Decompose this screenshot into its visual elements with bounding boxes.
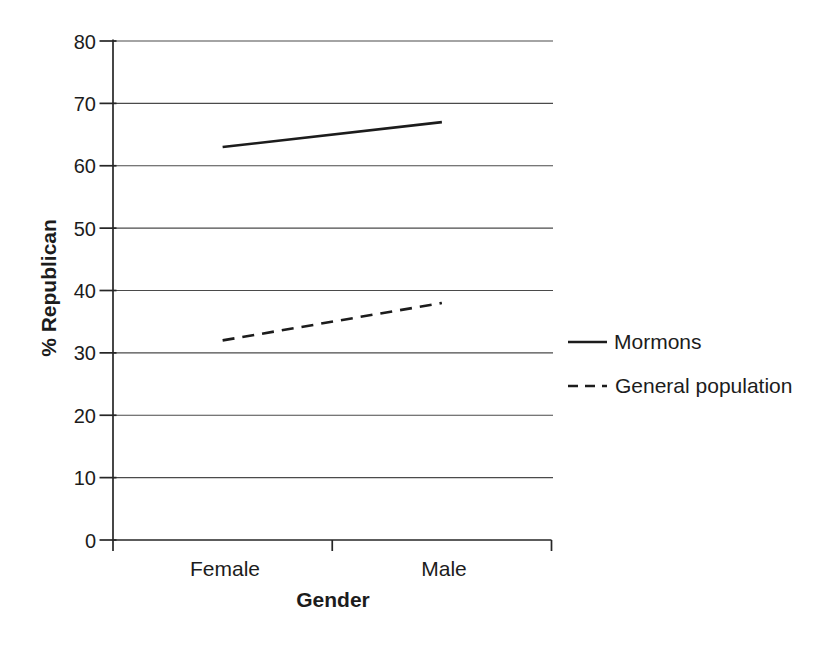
y-tick-label: 0: [85, 530, 96, 552]
y-tick-label: 80: [74, 31, 96, 53]
y-tick-label: 10: [74, 467, 96, 489]
line-chart: 01020304050607080 % Republican Gender Fe…: [0, 0, 833, 648]
legend: Mormons General population: [568, 330, 792, 397]
legend-label-general-population: General population: [615, 374, 792, 397]
y-axis-title: % Republican: [37, 219, 60, 357]
y-tick-label: 20: [74, 405, 96, 427]
y-tick-label: 70: [74, 93, 96, 115]
category-label-male: Male: [421, 557, 467, 580]
category-label-female: Female: [190, 557, 260, 580]
y-tick-label: 30: [74, 342, 96, 364]
y-tick-label: 50: [74, 218, 96, 240]
chart-figure: 01020304050607080 % Republican Gender Fe…: [0, 0, 833, 648]
series-line-general-population: [223, 303, 442, 340]
gridlines: [113, 41, 553, 478]
y-tick-label: 60: [74, 155, 96, 177]
axes: [112, 40, 551, 552]
y-tick-label: 40: [74, 280, 96, 302]
x-axis-title: Gender: [296, 588, 370, 611]
series-lines: [223, 122, 442, 340]
legend-label-mormons: Mormons: [614, 330, 702, 353]
series-line-mormons: [223, 122, 442, 147]
